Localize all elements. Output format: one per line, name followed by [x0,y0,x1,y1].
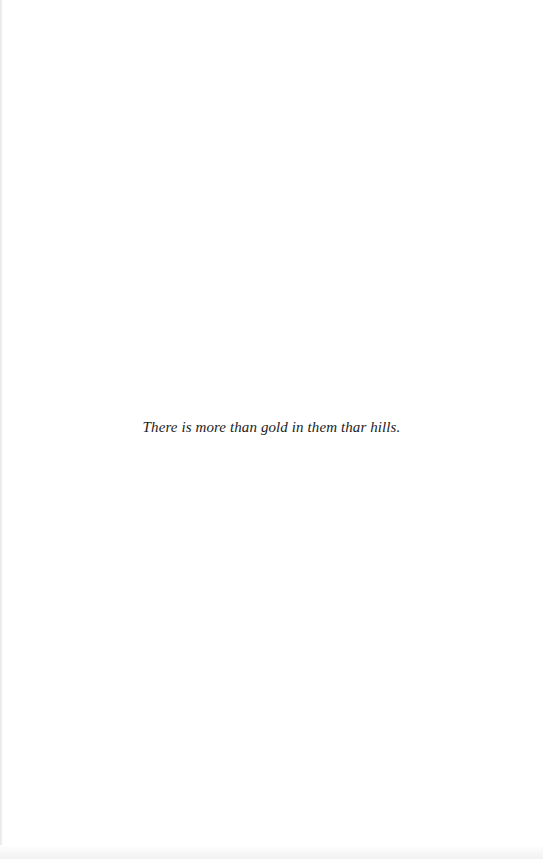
epigraph-text: There is more than gold in them thar hil… [0,419,543,436]
document-page: There is more than gold in them thar hil… [0,0,543,859]
page-bottom-shadow [0,845,543,859]
